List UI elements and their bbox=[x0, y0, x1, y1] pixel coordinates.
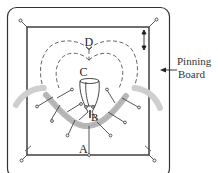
center-line-a bbox=[88, 126, 91, 156]
pointer-arrow bbox=[160, 68, 177, 73]
label-d: D bbox=[85, 35, 94, 49]
label-line-2: Board bbox=[177, 68, 211, 81]
label-c: C bbox=[80, 65, 88, 79]
pinning-board-label: Pinning Board bbox=[177, 55, 211, 81]
label-b: B bbox=[91, 111, 98, 123]
label-line-1: Pinning bbox=[177, 55, 211, 68]
pinning-diagram: D C B A bbox=[0, 0, 218, 173]
vertical-adjust-arrow bbox=[142, 30, 146, 50]
label-a: A bbox=[79, 142, 88, 156]
